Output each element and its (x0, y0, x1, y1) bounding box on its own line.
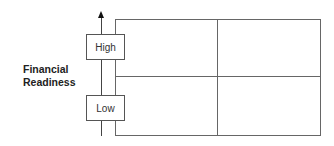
matrix-grid (115, 19, 321, 136)
level-box-low: Low (86, 95, 125, 121)
y-axis-label-line2: Readiness (23, 76, 76, 89)
level-label-low: Low (96, 103, 114, 114)
matrix-horizontal-divider (115, 76, 321, 77)
level-box-high: High (86, 34, 125, 60)
y-axis-label: Financial Readiness (23, 63, 76, 89)
y-axis-label-line1: Financial (23, 63, 76, 76)
arrow-up-icon (98, 11, 104, 18)
level-label-high: High (95, 42, 116, 53)
matrix-vertical-divider (217, 19, 218, 136)
